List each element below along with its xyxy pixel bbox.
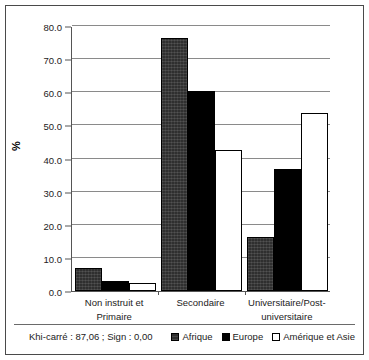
y-tick-label: 50.0 [44, 121, 63, 132]
y-tick-label: 80.0 [44, 22, 63, 33]
plot-area [71, 27, 330, 292]
y-tick-label: 10.0 [44, 253, 63, 264]
category-separator [158, 291, 159, 295]
legend-swatch-icon [222, 333, 230, 341]
y-tick-label: 60.0 [44, 88, 63, 99]
x-axis-label-line: Universitaire/Post- [244, 296, 330, 310]
x-axis-labels: Non instruit etPrimaireSecondaireUnivers… [71, 296, 330, 332]
legend-item-europe[interactable]: Europe [222, 331, 264, 342]
bar-amerique-1 [215, 150, 242, 291]
y-tick-label: 70.0 [44, 55, 63, 66]
bars-layer [72, 27, 330, 291]
legend-item-amerique[interactable]: Amérique et Asie [272, 331, 355, 342]
legend-label: Europe [233, 331, 264, 342]
x-axis-label-1: Secondaire [157, 296, 243, 310]
x-axis-label-0: Non instruit etPrimaire [71, 296, 157, 323]
bar-europe-2 [274, 169, 301, 291]
chart-figure: % 0.010.020.030.040.050.060.070.080.0 No… [0, 0, 369, 360]
legend-item-afrique[interactable]: Afrique [171, 331, 212, 342]
bar-europe-1 [188, 91, 215, 291]
bar-europe-0 [102, 281, 129, 291]
chart-legend: AfriqueEuropeAmérique et Asie [171, 331, 355, 342]
legend-label: Afrique [182, 331, 212, 342]
bar-amerique-2 [301, 113, 328, 291]
x-axis-label-2: Universitaire/Post-universitaire [244, 296, 330, 323]
y-tick-label: 30.0 [44, 187, 63, 198]
x-axis-label-line: universitaire [244, 310, 330, 324]
bar-afrique-2 [247, 237, 274, 291]
x-axis-label-line: Non instruit et [71, 296, 157, 310]
bar-afrique-0 [75, 268, 102, 291]
footer-divider [14, 324, 355, 325]
x-axis-label-line: Secondaire [157, 296, 243, 310]
y-tick-label: 20.0 [44, 220, 63, 231]
y-tick-label: 40.0 [44, 154, 63, 165]
legend-label: Amérique et Asie [283, 331, 355, 342]
gridline [72, 25, 330, 26]
x-axis-label-line: Primaire [71, 310, 157, 324]
legend-swatch-icon [272, 333, 280, 341]
bar-amerique-0 [129, 283, 156, 291]
category-separator [245, 291, 246, 295]
y-axis-ticks: 0.010.020.030.040.050.060.070.080.0 [0, 27, 71, 292]
chi-square-annotation: Khi-carré : 87,06 ; Sign : 0,00 [29, 331, 153, 342]
legend-swatch-icon [171, 333, 179, 341]
bar-afrique-1 [161, 38, 188, 291]
y-tick-label: 0.0 [49, 287, 62, 298]
